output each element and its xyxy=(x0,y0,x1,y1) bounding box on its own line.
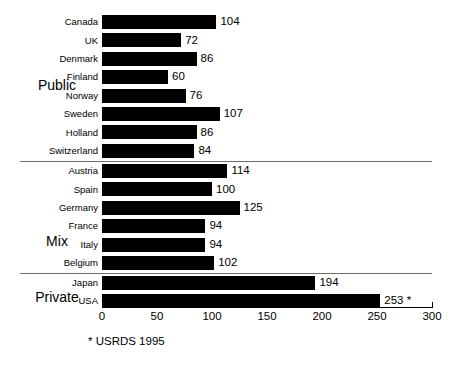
x-axis-tick-label: 200 xyxy=(312,311,331,323)
bar xyxy=(102,164,227,178)
bar-value-label: 114 xyxy=(227,165,249,177)
x-axis-tick-label: 50 xyxy=(151,311,164,323)
category-label: Austria xyxy=(68,166,98,176)
bar-value-label: 60 xyxy=(168,72,185,84)
bar-row: Sweden 107 xyxy=(0,105,457,123)
x-axis-tick-label: 0 xyxy=(99,311,105,323)
bar-row: Austria 114 xyxy=(0,162,457,180)
x-axis-tick xyxy=(322,302,323,308)
bar-row: Canada 104 xyxy=(0,13,457,31)
bar-row: Belgium 102 xyxy=(0,254,457,272)
bar xyxy=(102,294,380,308)
bar-row: Norway 76 xyxy=(0,87,457,105)
bar-value-label: 86 xyxy=(197,53,214,65)
category-label: Finland xyxy=(67,73,98,83)
category-label: Japan xyxy=(72,278,98,288)
bar-value-label: 194 xyxy=(315,277,338,289)
bar-row: Holland 86 xyxy=(0,123,457,141)
bar-value-label: 104 xyxy=(216,16,239,28)
bar xyxy=(102,89,186,103)
category-label: Canada xyxy=(65,17,98,27)
bar xyxy=(102,219,205,233)
x-axis-tick-label: 250 xyxy=(367,311,386,323)
bar-value-label: 76 xyxy=(186,90,203,102)
category-label: Belgium xyxy=(64,258,98,268)
bar-row: Spain 100 xyxy=(0,180,457,198)
x-axis-tick xyxy=(267,302,268,308)
x-axis-tick-label: 300 xyxy=(422,311,441,323)
bar xyxy=(102,201,240,215)
bar-value-label: 125 xyxy=(240,202,263,214)
x-axis-tick xyxy=(157,302,158,308)
x-axis-tick xyxy=(212,302,213,308)
bar-value-label: 94 xyxy=(205,239,222,251)
x-axis-tick xyxy=(377,302,378,308)
bar-value-label: 100 xyxy=(212,184,235,196)
category-label: Germany xyxy=(59,203,98,213)
bar-value-label: 72 xyxy=(181,35,198,47)
x-axis-tick xyxy=(432,302,433,308)
x-axis-tick-label: 150 xyxy=(257,311,276,323)
bar-row: Finland 60 xyxy=(0,68,457,86)
bar-row: Germany 125 xyxy=(0,199,457,217)
bar xyxy=(102,256,214,270)
bar xyxy=(102,238,205,252)
bar-row: Italy 94 xyxy=(0,236,457,254)
bar xyxy=(102,52,197,66)
category-label: Spain xyxy=(74,185,98,195)
bar-value-label: 107 xyxy=(220,108,243,120)
bar xyxy=(102,33,181,47)
bar-value-label: 102 xyxy=(214,257,237,269)
bar-row: Switzerland 84 xyxy=(0,142,457,160)
bar-value-label: 86 xyxy=(197,127,214,139)
bar-value-label: 84 xyxy=(194,145,211,157)
category-label: Switzerland xyxy=(49,146,98,156)
bar xyxy=(102,182,212,196)
bar-row: UK 72 xyxy=(0,31,457,49)
category-label: USA xyxy=(78,296,98,306)
x-axis-tick-label: 100 xyxy=(202,311,221,323)
bar xyxy=(102,70,168,84)
bar xyxy=(102,15,216,29)
category-label: Italy xyxy=(81,240,98,250)
x-axis-tick xyxy=(102,302,103,308)
bar-chart: Public Canada 104 UK 72 Denmark 86 Finla… xyxy=(0,0,457,371)
bar-row: France 94 xyxy=(0,217,457,235)
bar xyxy=(102,107,220,121)
bar-value-label: 253 * xyxy=(380,295,411,307)
category-label: Holland xyxy=(66,128,98,138)
bar-row: Denmark 86 xyxy=(0,50,457,68)
category-label: UK xyxy=(85,36,98,46)
bar-value-label: 94 xyxy=(205,221,222,233)
chart-footnote: * USRDS 1995 xyxy=(88,336,165,348)
bar xyxy=(102,276,315,290)
bar xyxy=(102,144,194,158)
category-label: France xyxy=(68,222,98,232)
bar-row: Japan 194 xyxy=(0,274,457,292)
category-label: Norway xyxy=(66,91,98,101)
category-label: Sweden xyxy=(64,109,98,119)
category-label: Denmark xyxy=(59,54,98,64)
bar xyxy=(102,125,197,139)
